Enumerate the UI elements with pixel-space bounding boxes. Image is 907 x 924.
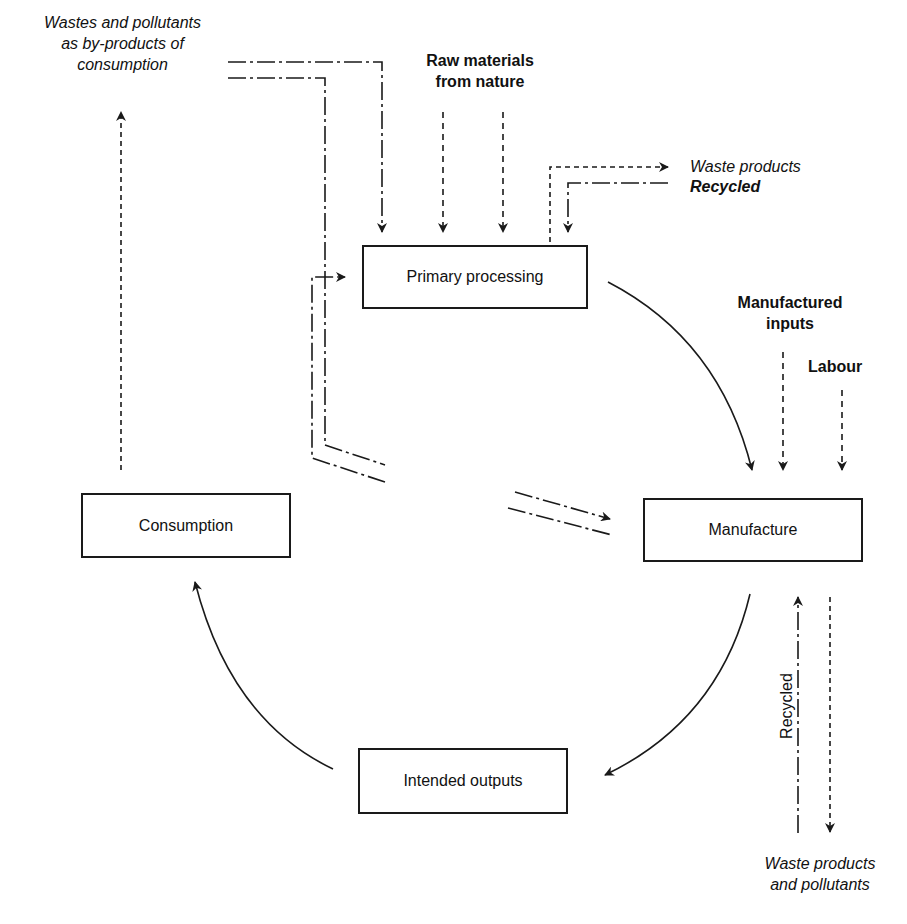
node-label: Intended outputs — [403, 772, 522, 790]
label-waste-products-bottom: Waste products and pollutants — [740, 853, 900, 895]
label-waste-products-top: Waste products — [690, 156, 801, 177]
label-line: Wastes and pollutants — [20, 12, 225, 33]
node-label: Primary processing — [407, 268, 544, 286]
label-manufactured-inputs: Manufactured inputs — [710, 292, 870, 334]
label-line: Raw materials — [400, 50, 560, 71]
node-label: Manufacture — [709, 521, 798, 539]
label-wastes-consumption: Wastes and pollutants as by-products of … — [20, 12, 225, 75]
node-primary-processing: Primary processing — [362, 245, 588, 309]
node-consumption: Consumption — [81, 493, 291, 558]
node-label: Consumption — [139, 517, 233, 535]
label-labour: Labour — [808, 356, 862, 377]
label-recycled-vertical: Recycled — [778, 666, 796, 746]
label-line: Waste products — [740, 853, 900, 874]
label-line: inputs — [710, 313, 870, 334]
label-recycled-top: Recycled — [690, 176, 760, 197]
label-raw-materials: Raw materials from nature — [400, 50, 560, 92]
label-line: as by-products of — [20, 33, 225, 54]
label-line: from nature — [400, 71, 560, 92]
node-intended-outputs: Intended outputs — [358, 748, 568, 814]
node-manufacture: Manufacture — [643, 498, 863, 562]
label-line: consumption — [20, 54, 225, 75]
label-line: Manufactured — [710, 292, 870, 313]
label-line: and pollutants — [740, 874, 900, 895]
